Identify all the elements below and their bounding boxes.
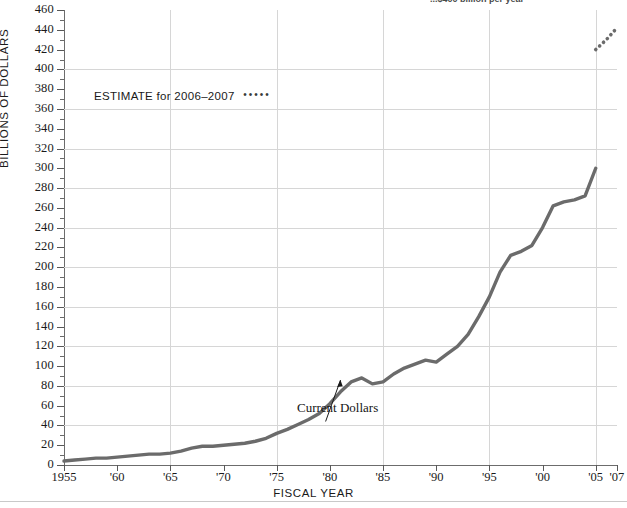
x-tick-label: '95 xyxy=(482,470,497,485)
y-tick-label: 300 xyxy=(35,160,54,175)
y-tick-label: 400 xyxy=(35,61,54,76)
y-tick-label: 40 xyxy=(41,417,54,432)
y-tick-major xyxy=(57,287,64,288)
y-tick-major xyxy=(57,366,64,367)
plot-area xyxy=(64,10,617,465)
y-tick-major xyxy=(57,208,64,209)
y-tick-major xyxy=(57,109,64,110)
y-tick-major xyxy=(57,445,64,446)
y-tick-label: 180 xyxy=(35,279,54,294)
y-tick-label: 60 xyxy=(41,398,54,413)
y-tick-major xyxy=(57,50,64,51)
y-tick-major xyxy=(57,149,64,150)
y-tick-major xyxy=(57,307,64,308)
x-tick-label: '07 xyxy=(610,470,625,485)
y-tick-label: 120 xyxy=(35,338,54,353)
estimate-legend-label: ESTIMATE for 2006–2007 xyxy=(94,90,235,102)
y-tick-label: 200 xyxy=(35,259,54,274)
y-tick-label: 360 xyxy=(35,101,54,116)
y-tick-major xyxy=(57,168,64,169)
estimate-legend-dotted-swatch: ••••• xyxy=(243,89,271,100)
estimate-legend: ESTIMATE for 2006–2007 ••••• xyxy=(94,89,271,102)
y-axis-title: BILLIONS OF DOLLARS xyxy=(0,0,10,168)
x-tick-label: '70 xyxy=(216,470,231,485)
y-tick-label: 80 xyxy=(41,378,54,393)
y-tick-major xyxy=(57,129,64,130)
y-tick-label: 340 xyxy=(35,121,54,136)
y-tick-label: 320 xyxy=(35,141,54,156)
current-dollars-pointer-arrow xyxy=(64,10,617,465)
y-tick-label: 240 xyxy=(35,220,54,235)
spending-line-chart: 0204060801001201401601802002202402602803… xyxy=(0,0,627,508)
y-tick-major xyxy=(57,346,64,347)
x-axis-title: FISCAL YEAR xyxy=(0,487,627,499)
x-tick-label: 1955 xyxy=(52,470,77,485)
y-tick-label: 280 xyxy=(35,180,54,195)
y-tick-major xyxy=(57,10,64,11)
y-tick-label: 460 xyxy=(35,2,54,17)
x-axis-tick-labels: 1955'60'65'70'75'80'85'90'95'00'05'07 xyxy=(64,470,624,488)
x-tick-label: '75 xyxy=(269,470,284,485)
y-tick-label: 160 xyxy=(35,299,54,314)
y-tick-label: 140 xyxy=(35,319,54,334)
x-tick-label: '60 xyxy=(110,470,125,485)
y-tick-major xyxy=(57,30,64,31)
y-tick-major xyxy=(57,228,64,229)
x-tick-label: '05 xyxy=(588,470,603,485)
y-tick-label: 260 xyxy=(35,200,54,215)
y-tick-label: 100 xyxy=(35,358,54,373)
y-tick-label: 220 xyxy=(35,239,54,254)
y-tick-major xyxy=(57,247,64,248)
footer-divider xyxy=(0,501,627,502)
x-tick-label: '85 xyxy=(376,470,391,485)
current-dollars-annotation: Current Dollars xyxy=(297,400,378,416)
y-tick-major xyxy=(57,89,64,90)
y-tick-label: 20 xyxy=(41,437,54,452)
x-tick-label: '00 xyxy=(535,470,550,485)
y-tick-major xyxy=(57,188,64,189)
y-tick-label: 380 xyxy=(35,81,54,96)
y-tick-major xyxy=(57,327,64,328)
y-tick-major xyxy=(57,267,64,268)
x-tick-label: '65 xyxy=(163,470,178,485)
y-tick-major xyxy=(57,386,64,387)
y-tick-major xyxy=(57,425,64,426)
y-tick-label: 420 xyxy=(35,42,54,57)
y-tick-major xyxy=(57,69,64,70)
y-tick-label: 440 xyxy=(35,22,54,37)
y-tick-major xyxy=(57,465,64,466)
y-tick-major xyxy=(57,406,64,407)
x-tick-label: '90 xyxy=(429,470,444,485)
x-tick-label: '80 xyxy=(323,470,338,485)
